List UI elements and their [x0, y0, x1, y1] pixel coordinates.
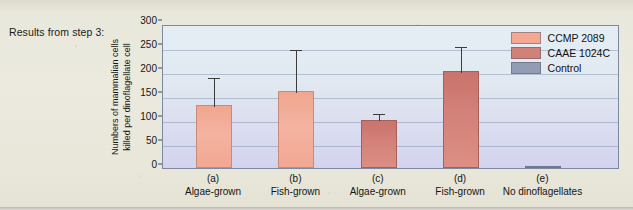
error-bar [379, 114, 380, 121]
x-tick-name: Fish-grown [435, 185, 484, 198]
x-tick-label: (c)Algae-grown [350, 172, 406, 198]
legend-swatch [511, 62, 541, 74]
x-tick-label: (d)Fish-grown [435, 172, 484, 198]
y-tick-label: 50 [146, 134, 157, 145]
legend-swatch [511, 32, 541, 44]
bar [525, 166, 561, 168]
error-bar-cap [455, 47, 467, 48]
chart-figure: Results from step 3: Numbers of mammalia… [0, 0, 633, 210]
x-axis-tick-labels: (a)Algae-grown(b)Fish-grown(c)Algae-grow… [162, 172, 619, 206]
legend-label: Control [548, 62, 582, 74]
x-tick-name: Algae-grown [350, 185, 406, 198]
y-tick-label: 100 [140, 110, 157, 121]
x-tick-label: (e)No dinoflagellates [503, 172, 583, 198]
y-axis-title-line-2: killed per dinoflagellate cell [122, 22, 134, 172]
bar [278, 91, 314, 168]
x-tick-name: No dinoflagellates [503, 185, 583, 198]
y-tick-label: 0 [151, 158, 157, 169]
legend-item: CAAE 1024C [511, 47, 610, 59]
x-tick-key: (d) [435, 172, 484, 185]
y-tick-label: 250 [140, 38, 157, 49]
error-bar-cap [373, 114, 385, 115]
x-tick-key: (e) [503, 172, 583, 185]
x-tick-key: (b) [271, 172, 320, 185]
legend-swatch [511, 47, 541, 59]
x-tick-label: (b)Fish-grown [271, 172, 320, 198]
figure-caption: Results from step 3: [9, 26, 104, 38]
y-tick-label: 300 [140, 14, 157, 25]
error-bar-cap [208, 78, 220, 79]
x-tick-label: (a)Algae-grown [185, 172, 241, 198]
x-tick-name: Fish-grown [271, 185, 320, 198]
y-tick-mark [158, 19, 162, 20]
x-tick-key: (a) [185, 172, 241, 185]
bar [443, 71, 479, 168]
plot-area: CCMP 2089CAAE 1024CControl [162, 25, 619, 169]
legend-label: CCMP 2089 [548, 32, 605, 44]
error-bar [296, 50, 297, 93]
y-axis-tick-labels: 050100150200250300 [138, 19, 162, 171]
legend-label: CAAE 1024C [548, 47, 610, 59]
legend-item: Control [511, 62, 610, 74]
error-bar-cap [290, 50, 302, 51]
y-tick-label: 200 [140, 62, 157, 73]
y-tick-label: 150 [140, 86, 157, 97]
x-tick-key: (c) [350, 172, 406, 185]
x-tick-name: Algae-grown [185, 185, 241, 198]
error-bar [461, 47, 462, 72]
bar [196, 105, 232, 167]
bar [361, 120, 397, 168]
chart-legend: CCMP 2089CAAE 1024CControl [511, 32, 610, 74]
y-axis-title: Numbers of mammalian cells killed per di… [110, 22, 140, 172]
y-axis-title-line-1: Numbers of mammalian cells [110, 22, 122, 172]
error-bar [214, 78, 215, 107]
legend-item: CCMP 2089 [511, 32, 610, 44]
